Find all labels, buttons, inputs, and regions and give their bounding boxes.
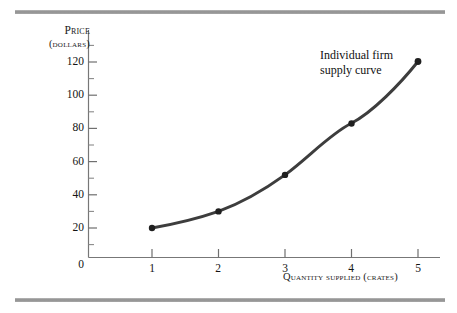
y-tick-label-100: 100 — [56, 88, 84, 100]
y-tick-label-60: 60 — [56, 155, 84, 167]
curve-annotation-line2: supply curve — [320, 63, 393, 78]
y-tick-label-80: 80 — [56, 121, 84, 133]
data-point — [282, 172, 288, 178]
y-axis-title: Price (dollars) — [38, 24, 90, 50]
data-point-markers — [149, 58, 422, 231]
x-tick-label-5: 5 — [410, 262, 426, 274]
y-axis-title-line1: Price — [64, 24, 90, 36]
curve-annotation: Individual firm supply curve — [320, 48, 393, 78]
data-point — [149, 225, 155, 231]
supply-curve-line — [152, 62, 418, 229]
y-axis-minor-ticks — [89, 45, 95, 244]
y-tick-label-40: 40 — [56, 188, 84, 200]
y-tick-label-20: 20 — [56, 221, 84, 233]
x-tick-label-3: 3 — [277, 262, 293, 274]
y-tick-label-120: 120 — [56, 55, 84, 67]
x-tick-label-4: 4 — [343, 262, 359, 274]
curve-annotation-line1: Individual firm — [320, 48, 393, 63]
data-point — [348, 120, 354, 126]
x-tick-label-2: 2 — [210, 262, 226, 274]
x-tick-label-1: 1 — [144, 262, 160, 274]
y-tick-label-0: 0 — [56, 258, 84, 270]
data-point — [415, 58, 422, 65]
x-axis-title: Quantity supplied (crates) — [283, 271, 398, 282]
y-axis-title-line2: (dollars) — [38, 37, 90, 50]
data-point — [215, 208, 221, 214]
figure-container: Price (dollars) Quantity supplied (crate… — [0, 0, 457, 313]
x-axis-ticks — [152, 249, 418, 258]
